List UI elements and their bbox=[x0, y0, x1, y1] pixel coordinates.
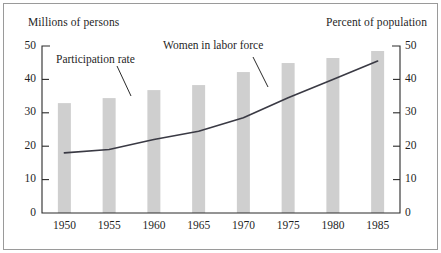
bar-1975 bbox=[282, 63, 295, 213]
leader-participation-rate bbox=[117, 66, 131, 96]
bar-1985 bbox=[371, 51, 384, 213]
bar-1955 bbox=[103, 98, 116, 213]
bar-1965 bbox=[192, 85, 205, 213]
figure-container: Millions of persons Percent of populatio… bbox=[0, 0, 441, 253]
bar-1960 bbox=[147, 90, 160, 213]
axis-frame bbox=[42, 46, 400, 213]
chart-svg bbox=[0, 0, 441, 253]
bar-1970 bbox=[237, 72, 250, 213]
bars-group bbox=[58, 51, 384, 213]
axis-group bbox=[42, 46, 400, 213]
leader-women-in-labor-force bbox=[253, 57, 268, 87]
bar-1950 bbox=[58, 103, 71, 213]
plot-area: Millions of persons Percent of populatio… bbox=[0, 0, 441, 253]
